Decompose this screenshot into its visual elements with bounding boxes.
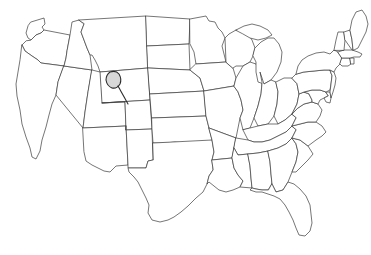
state-alabama: [248, 151, 272, 190]
us-outline-map: [0, 0, 371, 255]
state-connecticut: [340, 58, 351, 66]
state-kansas: [150, 91, 206, 118]
state-oklahoma: [152, 116, 212, 143]
state-south-dakota: [147, 44, 190, 70]
highlight-region-blob: [106, 71, 121, 88]
state-north-dakota: [146, 16, 190, 46]
map-canvas: [0, 0, 371, 255]
state-rhode-island: [350, 58, 354, 64]
